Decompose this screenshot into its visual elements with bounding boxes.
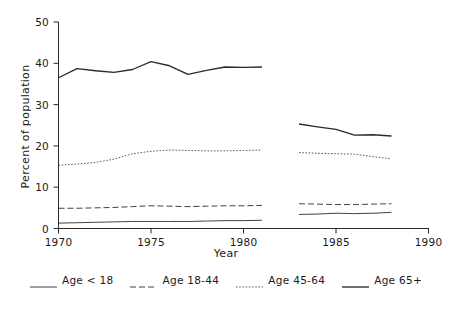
chart-legend: Age < 18Age 18-44Age 45-64Age 65+ (0, 274, 452, 286)
data-series-group (59, 62, 392, 223)
y-axis-title: Percent of population (19, 47, 32, 207)
legend-line-icon (342, 276, 369, 284)
axis-lines (58, 22, 429, 229)
legend-line-icon (30, 276, 57, 284)
series-line (299, 153, 392, 159)
series-line (299, 212, 392, 214)
legend-label: Age 18-44 (162, 274, 219, 286)
legend-line-icon (236, 276, 263, 284)
x-axis-ticks (59, 229, 429, 234)
x-axis-title: Year (0, 247, 452, 260)
series-line (59, 62, 263, 78)
y-tick-label: 0 (25, 223, 49, 235)
y-axis-ticks (54, 22, 59, 229)
legend-line-icon (130, 276, 157, 284)
legend-label: Age < 18 (62, 274, 114, 286)
series-line (299, 124, 392, 136)
y-tick-label: 50 (25, 16, 49, 28)
legend-label: Age 65+ (374, 274, 422, 286)
legend-item[interactable]: Age 18-44 (130, 274, 219, 286)
series-line (299, 204, 392, 205)
legend-label: Age 45-64 (268, 274, 325, 286)
legend-item[interactable]: Age 45-64 (236, 274, 325, 286)
series-line (59, 205, 263, 208)
legend-item[interactable]: Age < 18 (30, 274, 114, 286)
series-line (59, 150, 263, 165)
legend-item[interactable]: Age 65+ (342, 274, 422, 286)
chart-figure: 01020304050 19701975198019851990 Percent… (0, 0, 452, 309)
series-line (59, 220, 263, 223)
plot-area (0, 0, 452, 309)
